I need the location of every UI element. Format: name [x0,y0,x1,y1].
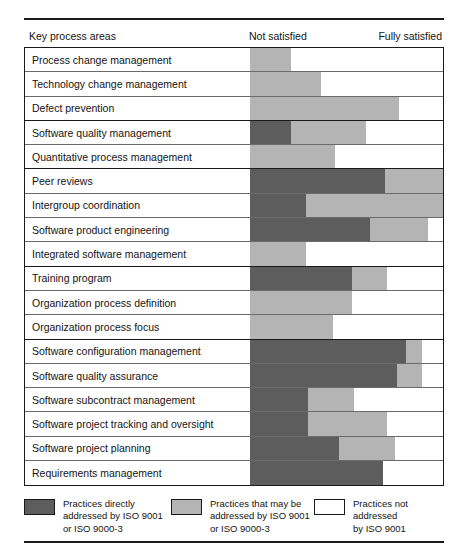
bar-segment-dark [250,267,352,290]
bar-segment-mid [306,194,443,217]
bar-segment-mid [250,72,321,95]
bar-segment-dark [250,340,406,363]
stacked-bar [250,267,443,290]
stacked-bar [250,388,443,411]
header-not-satisfied: Not satisfied [249,29,307,43]
stacked-bar [250,72,443,95]
table-row: Technology change management [25,72,443,96]
bar-segment-mid [385,169,443,192]
bar-segment-light [306,242,443,265]
chart-legend: Practices directly addressed by ISO 9001… [24,498,444,538]
kpa-label: Intergroup coordination [25,194,250,217]
bar-segment-light [387,267,443,290]
header-key-process-areas: Key process areas [29,29,116,43]
legend-swatch-light [314,499,345,515]
bar-segment-light [352,291,443,314]
kpa-label: Process change management [25,48,250,71]
stacked-bar [250,315,443,338]
figure-root: Key process areas Not satisfied Fully sa… [0,0,473,551]
top-rule [24,18,444,20]
stacked-bar [250,194,443,217]
table-row: Software project tracking and oversight [25,412,443,436]
bar-segment-mid [250,315,333,338]
bar-segment-light [422,340,443,363]
legend-swatch-mid [171,499,202,515]
bar-segment-mid [250,242,306,265]
table-row: Software quality management [25,121,443,145]
bar-segment-mid [339,437,395,460]
bar-segment-mid [352,267,387,290]
table-row: Training program [25,267,443,291]
table-row: Software project planning [25,437,443,461]
kpa-label: Software project planning [25,437,250,460]
bar-segment-dark [250,437,339,460]
legend-swatch-dark [24,499,55,515]
table-row: Defect prevention [25,97,443,121]
kpa-label: Software product engineering [25,218,250,241]
stacked-bar [250,364,443,387]
bar-segment-dark [250,194,306,217]
bar-segment-mid [370,218,428,241]
legend-item: Practices not addressed by ISO 9001 [314,498,444,535]
bar-segment-light [383,461,443,485]
bar-segment-dark [250,461,383,485]
table-row: Organization process definition [25,291,443,315]
bar-segment-dark [250,169,385,192]
legend-item: Practices that may be addressed by ISO 9… [171,498,310,535]
bar-segment-light [366,121,443,144]
stacked-bar [250,169,443,192]
bar-segment-mid [406,340,421,363]
table-row: Organization process focus [25,315,443,339]
stacked-bar [250,437,443,460]
bar-segment-mid [250,145,335,168]
kpa-label: Peer reviews [25,169,250,192]
bar-segment-light [321,72,443,95]
bar-segment-mid [308,388,354,411]
table-row: Peer reviews [25,169,443,193]
kpa-label: Software quality assurance [25,364,250,387]
stacked-bar [250,145,443,168]
table-row: Quantitative process management [25,145,443,169]
bar-segment-mid [308,412,387,435]
bar-segment-dark [250,218,370,241]
bar-segment-mid [250,48,291,71]
kpa-label: Organization process focus [25,315,250,338]
table-row: Requirements management [25,461,443,485]
legend-item: Practices directly addressed by ISO 9001… [24,498,163,535]
bottom-rule [24,541,444,543]
bar-segment-light [399,97,443,120]
table-row: Software quality assurance [25,364,443,388]
kpa-label: Quantitative process management [25,145,250,168]
table-row: Process change management [25,48,443,72]
stacked-bar [250,291,443,314]
column-headers: Key process areas Not satisfied Fully sa… [24,29,444,44]
bar-segment-mid [250,97,399,120]
kpa-label: Technology change management [25,72,250,95]
stacked-bar [250,242,443,265]
bar-segment-dark [250,121,291,144]
bar-segment-dark [250,388,308,411]
kpa-label: Requirements management [25,461,250,485]
kpa-label: Training program [25,267,250,290]
table-row: Software subcontract management [25,388,443,412]
table-row: Software product engineering [25,218,443,242]
kpa-label: Organization process definition [25,291,250,314]
legend-label: Practices not addressed by ISO 9001 [353,498,444,535]
kpa-label: Defect prevention [25,97,250,120]
header-fully-satisfied: Fully satisfied [378,29,442,43]
stacked-bar [250,48,443,71]
kpa-table: Process change managementTechnology chan… [24,47,444,486]
table-row: Intergroup coordination [25,194,443,218]
kpa-label: Integrated software management [25,242,250,265]
kpa-label: Software project tracking and oversight [25,412,250,435]
bar-segment-light [387,412,443,435]
table-row: Software configuration management [25,340,443,364]
bar-segment-light [395,437,443,460]
legend-label: Practices that may be addressed by ISO 9… [210,498,310,535]
bar-segment-mid [397,364,422,387]
stacked-bar [250,461,443,485]
bar-segment-mid [250,291,352,314]
bar-segment-light [333,315,443,338]
legend-label: Practices directly addressed by ISO 9001… [63,498,163,535]
stacked-bar [250,218,443,241]
